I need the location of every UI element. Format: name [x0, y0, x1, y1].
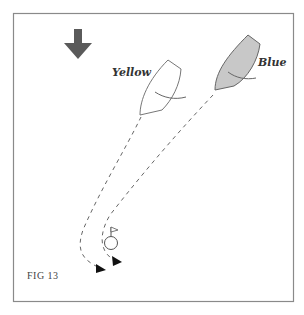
diagram-canvas: Yellow Blue FIG 13	[0, 0, 304, 315]
figure-label: FIG 13	[27, 270, 59, 281]
yellow-boat-label: Yellow	[112, 66, 151, 79]
diagram-svg	[0, 0, 304, 315]
blue-boat-label: Blue	[258, 56, 286, 69]
